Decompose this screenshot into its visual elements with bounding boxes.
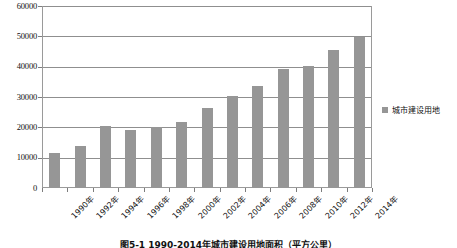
x-tick-label: 1992年: [95, 195, 121, 221]
y-tick-label: 40000: [17, 62, 37, 71]
x-tick-label: 1994年: [121, 195, 147, 221]
x-tick-mark: [270, 188, 271, 192]
x-axis: 1990年1992年1994年1996年1998年2000年2002年2004年…: [42, 188, 372, 236]
y-axis: 0100002000030000400005000060000: [0, 0, 42, 194]
x-tick-mark: [42, 188, 43, 192]
y-tick-label: 0: [33, 184, 37, 193]
bar: [227, 96, 238, 188]
y-tick-label: 20000: [17, 123, 37, 132]
x-tick-label: 2008年: [298, 195, 324, 221]
bar: [49, 153, 60, 188]
x-tick-mark: [67, 188, 68, 192]
chart-legend: 城市建设用地: [382, 104, 440, 115]
x-tick-mark: [372, 188, 373, 192]
figure-caption: 图5-1 1990-2014年城市建设用地面积（平方公里）: [0, 238, 457, 248]
bar-series: [42, 6, 372, 188]
bar: [328, 50, 339, 188]
x-tick-label: 2010年: [324, 195, 350, 221]
legend-item-label: 城市建设用地: [392, 104, 440, 115]
x-tick-label: 2002年: [222, 195, 248, 221]
x-tick-mark: [321, 188, 322, 192]
bar: [75, 146, 86, 188]
y-tick-label: 60000: [17, 2, 37, 11]
x-tick-label: 2004年: [248, 195, 274, 221]
x-tick-label: 1998年: [172, 195, 198, 221]
y-tick-label: 30000: [17, 93, 37, 102]
x-tick-label: 2012年: [349, 195, 375, 221]
bar: [125, 130, 136, 188]
y-tick-label: 10000: [17, 153, 37, 162]
x-tick-mark: [347, 188, 348, 192]
x-tick-mark: [144, 188, 145, 192]
bar: [151, 127, 162, 188]
chart-figure: 0100002000030000400005000060000 1990年199…: [0, 0, 457, 248]
x-tick-label: 2014年: [375, 195, 401, 221]
x-tick-mark: [194, 188, 195, 192]
bar: [202, 108, 213, 188]
bar: [303, 66, 314, 188]
x-tick-label: 2000年: [197, 195, 223, 221]
x-tick-mark: [220, 188, 221, 192]
x-tick-mark: [245, 188, 246, 192]
x-tick-label: 2006年: [273, 195, 299, 221]
bar: [100, 126, 111, 188]
x-tick-mark: [296, 188, 297, 192]
bar: [278, 69, 289, 188]
x-tick-mark: [118, 188, 119, 192]
y-tick-label: 50000: [17, 32, 37, 41]
x-tick-label: 1996年: [146, 195, 172, 221]
legend-swatch-icon: [382, 107, 388, 113]
bar: [176, 122, 187, 188]
bar: [252, 86, 263, 188]
x-tick-label: 1990年: [70, 195, 96, 221]
bar: [354, 37, 365, 188]
x-tick-mark: [93, 188, 94, 192]
x-tick-mark: [169, 188, 170, 192]
